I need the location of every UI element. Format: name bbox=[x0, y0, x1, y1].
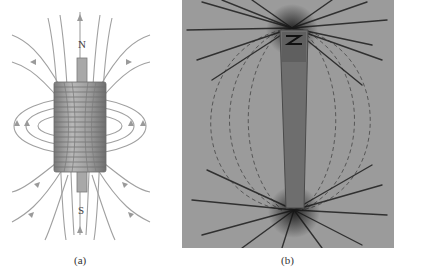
caption-a: (a) bbox=[74, 254, 86, 266]
south-pole-label: S bbox=[78, 204, 84, 216]
north-pole-label: N bbox=[78, 38, 86, 50]
iron-filings-photo bbox=[182, 0, 394, 248]
caption-b: (b) bbox=[281, 254, 294, 266]
panel-a-solenoid: N S (a) bbox=[0, 0, 180, 280]
solenoid-diagram: N S bbox=[0, 0, 180, 280]
panel-b-iron-filings-photo bbox=[182, 0, 394, 248]
